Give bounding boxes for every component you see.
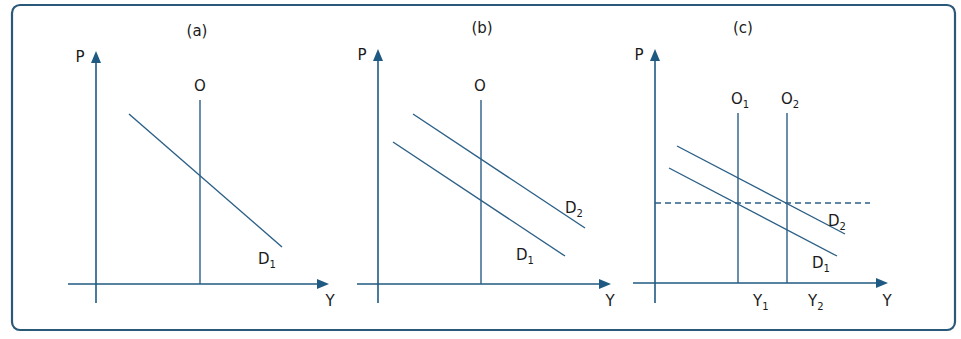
panel-b-y-axis-arrow-icon: [599, 279, 611, 289]
panel-c-supply-label-o1: O1: [731, 90, 749, 110]
panel-a-demand-label-d1: D1: [258, 250, 276, 270]
panel-c: (c) P Y O1 O2 D2 D1 Y1 Y2: [633, 19, 892, 312]
panel-b: (b) P Y O D1 D2: [357, 19, 615, 310]
panel-a-supply-label: O: [194, 77, 206, 95]
panel-b-demand-label-d1: D1: [516, 246, 534, 266]
panel-c-y-axis-arrow-icon: [876, 278, 888, 288]
panel-a-p-axis-arrow-icon: [91, 51, 101, 63]
panel-b-title: (b): [471, 19, 492, 37]
panel-a-y-axis-arrow-icon: [317, 279, 329, 289]
panel-c-p-label: P: [634, 46, 643, 64]
panel-a-y-label: Y: [324, 292, 335, 310]
figure-frame: [12, 5, 955, 330]
panel-a-p-label: P: [75, 48, 84, 66]
panel-b-demand-line-d2: [413, 114, 585, 228]
panel-a: (a) P Y O D1: [68, 22, 335, 310]
panel-b-p-axis-arrow-icon: [373, 49, 383, 61]
panel-c-x-marker-y1: Y1: [752, 292, 769, 312]
panel-c-y-label: Y: [881, 292, 892, 310]
panel-c-x-marker-y2: Y2: [807, 292, 824, 312]
panel-c-supply-label-o2: O2: [781, 90, 799, 110]
panel-b-demand-line-d1: [393, 142, 565, 256]
panel-c-demand-line-d1: [669, 168, 837, 256]
panel-a-demand-line-d1: [129, 114, 282, 247]
panel-a-title: (a): [187, 22, 208, 40]
panel-b-supply-label: O: [474, 77, 486, 95]
panel-b-demand-label-d2: D2: [565, 199, 583, 219]
panel-c-demand-label-d2: D2: [828, 212, 846, 232]
panel-c-demand-line-d2: [677, 146, 845, 234]
figure-canvas: (a) P Y O D1 (b) P Y O D1 D2: [0, 0, 961, 339]
panel-b-p-label: P: [357, 46, 366, 64]
panel-c-p-axis-arrow-icon: [650, 49, 660, 61]
panel-c-title: (c): [733, 19, 753, 37]
panel-b-y-label: Y: [604, 292, 615, 310]
panel-c-demand-label-d1: D1: [812, 254, 830, 274]
